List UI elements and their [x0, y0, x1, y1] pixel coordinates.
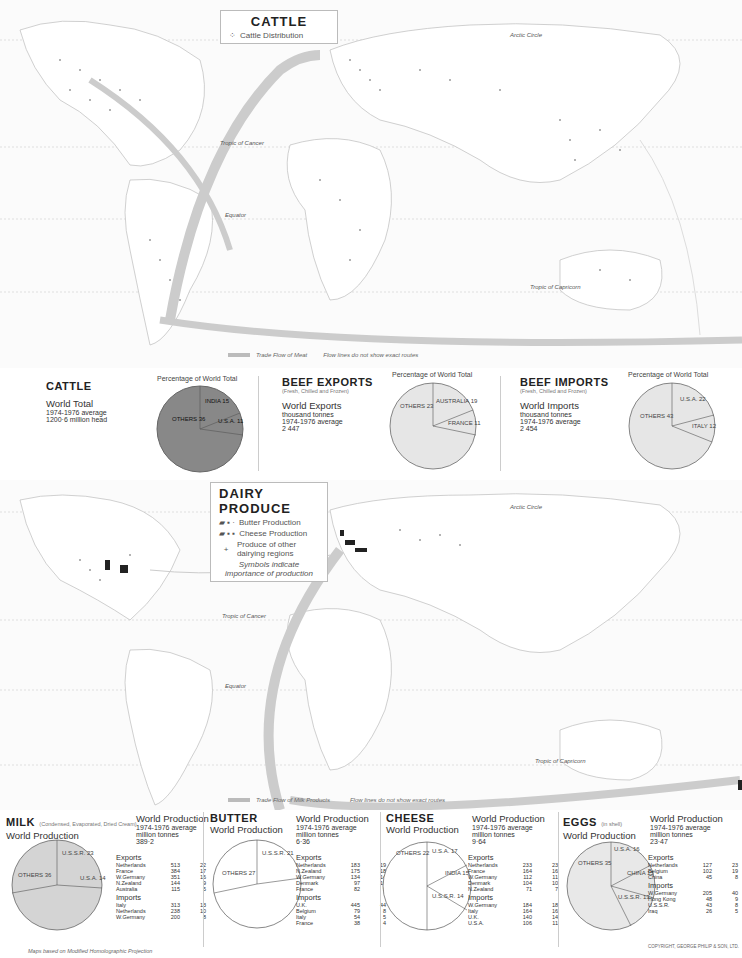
- divider: [258, 376, 259, 471]
- arctic-circle-label: Arctic Circle: [510, 32, 542, 38]
- dairy-stats-panel: MILK (Condensed, Evaporated, Dried Cream…: [0, 810, 742, 958]
- butter-stats: BUTTER World Production: [210, 812, 283, 835]
- tropic-cancer-label: Tropic of Cancer: [222, 613, 266, 619]
- cattle-legend: CATTLE ⁘ Cattle Distribution: [220, 10, 338, 44]
- dairy-map: DAIRY PRODUCE ▰ ▪ · Butter Production ▰ …: [0, 480, 742, 810]
- flow-swatch: [228, 353, 250, 357]
- equator-label: Equator: [225, 212, 246, 218]
- table-row: Iraq265: [648, 908, 738, 914]
- divider: [203, 812, 204, 947]
- cattle-map: CATTLE ⁘ Cattle Distribution Arctic Circ…: [0, 0, 742, 368]
- meat-flow-key: Trade Flow of Meat Flow lines do not sho…: [228, 352, 418, 358]
- eggs-pie-chart: [566, 840, 656, 934]
- other-dairy-legend-row: + Produce of other dairying regions: [219, 540, 319, 558]
- tropic-cancer-label: Tropic of Cancer: [220, 140, 264, 146]
- beef-imports-stats: BEEF IMPORTS (Fresh, Chilled and Frozen)…: [520, 376, 609, 432]
- cattle-stats-panel: CATTLE World Total 1974-1976 average 120…: [0, 368, 742, 478]
- butter-symbol-icon: ▰ ▪ ·: [219, 518, 235, 527]
- butter-legend-row: ▰ ▪ · Butter Production: [219, 518, 319, 527]
- tropic-capricorn-label: Tropic of Capricorn: [535, 758, 586, 764]
- cattle-legend-row: ⁘ Cattle Distribution: [229, 31, 329, 40]
- dairy-legend: DAIRY PRODUCE ▰ ▪ · Butter Production ▰ …: [210, 482, 328, 582]
- butter-trade-table: Exports Netherlands18319 N.Zealand17518 …: [296, 852, 386, 926]
- flow-swatch: [228, 798, 250, 802]
- cattle-map-title: CATTLE: [229, 14, 329, 29]
- cheese-stats: CHEESE World Production: [386, 812, 459, 835]
- arctic-circle-label: Arctic Circle: [510, 504, 542, 510]
- cheese-trade-table: Exports Netherlands23323 France16416 W.G…: [468, 852, 558, 926]
- projection-note: Maps based on Modified Homolographic Pro…: [28, 948, 152, 954]
- milk-stats: MILK (Condensed, Evaporated, Dried Cream…: [6, 812, 137, 841]
- dairy-map-title: DAIRY PRODUCE: [219, 486, 319, 516]
- cattle-stats: CATTLE World Total 1974-1976 average 120…: [46, 380, 107, 423]
- table-row: U.S.A.10611: [468, 920, 558, 926]
- table-row: Australia1155: [116, 886, 206, 892]
- beef-exports-pie-chart: [388, 380, 478, 472]
- divider: [380, 812, 381, 947]
- plus-icon: +: [219, 545, 233, 554]
- cattle-pie-chart: [155, 383, 245, 475]
- table-row: France384: [296, 920, 386, 926]
- cattle-world-map-graphic: [0, 0, 742, 368]
- copyright: COPYRIGHT, GEORGE PHILIP & SON, LTD.: [648, 944, 739, 949]
- milk-trade-table: Exports Netherlands51322 France38417 W.G…: [116, 852, 206, 920]
- table-row: W.Germany2008: [116, 914, 206, 920]
- beef-exports-stats: BEEF EXPORTS (Fresh, Chilled and Frozen)…: [282, 376, 373, 432]
- tropic-capricorn-label: Tropic of Capricorn: [530, 284, 581, 290]
- table-row: N.Zealand717: [468, 886, 558, 892]
- cheese-symbol-icon: ▰ ▪ ▪: [219, 529, 235, 538]
- eggs-trade-table: Exports Netherlands12723 Belgium10219 Ch…: [648, 852, 738, 914]
- table-row: France829: [296, 886, 386, 892]
- cattle-dots-icon: ⁘: [229, 31, 236, 40]
- butter-world-production: World Production 1974-1976 average milli…: [296, 813, 369, 845]
- equator-label: Equator: [225, 683, 246, 689]
- table-row: China458: [648, 874, 738, 880]
- eggs-stats: EGGS (in shell) World Production: [563, 812, 636, 841]
- divider: [500, 376, 501, 471]
- divider: [558, 812, 559, 947]
- dairy-world-map-graphic: [0, 480, 742, 810]
- cheese-world-production: World Production 1974-1976 average milli…: [472, 813, 545, 845]
- milk-world-production: World Production 1974-1976 average milli…: [136, 813, 209, 845]
- eggs-world-production: World Production 1974-1976 average milli…: [650, 813, 723, 845]
- milk-flow-key: Trade Flow of Milk Products Flow lines d…: [228, 797, 445, 803]
- cheese-legend-row: ▰ ▪ ▪ Cheese Production: [219, 529, 319, 538]
